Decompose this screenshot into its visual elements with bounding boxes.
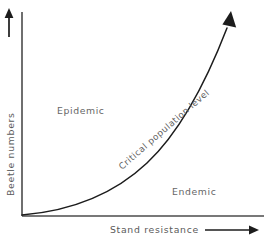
curve-end-arrow-icon — [222, 11, 236, 27]
region-label-epidemic: Epidemic — [57, 105, 105, 116]
y-axis-direction-arrow — [5, 8, 14, 37]
critical-population-curve — [22, 11, 236, 215]
y-axis-label: Beetle numbers — [5, 112, 16, 196]
beetle-population-diagram: Beetle numbers Stand resistance Epidemic… — [0, 0, 270, 237]
x-axis-direction-arrow — [205, 225, 259, 234]
x-axis-label: Stand resistance — [110, 224, 199, 235]
curve-label: Critical population level — [117, 87, 212, 171]
region-label-endemic: Endemic — [172, 186, 216, 197]
diagram-canvas: Beetle numbers Stand resistance Epidemic… — [0, 0, 270, 237]
